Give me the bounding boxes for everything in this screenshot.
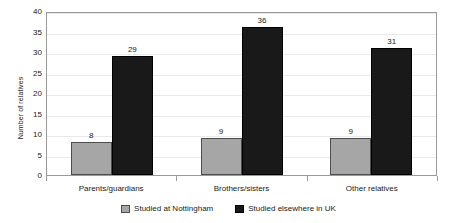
y-axis-tick-label: 30 [24, 49, 42, 57]
legend-label: Studied elsewhere in UK [248, 205, 336, 213]
x-axis-category-labels: Parents/guardians Brothers/sisters Other… [46, 182, 437, 196]
category-group: 9 36 [177, 13, 307, 175]
legend-item: Studied elsewhere in UK [235, 205, 336, 213]
bar-value-label: 8 [89, 132, 93, 140]
x-axis-tick [307, 176, 308, 181]
x-axis-tick [46, 176, 47, 181]
x-axis-ticks [46, 176, 437, 181]
y-axis-tick-label: 5 [24, 152, 42, 160]
bar-wrapper: 9 [201, 13, 242, 175]
category-group: 8 29 [47, 13, 177, 175]
x-axis-category-label: Brothers/sisters [176, 182, 306, 196]
bar-wrapper: 36 [242, 13, 283, 175]
legend-label: Studied at Nottingham [134, 205, 213, 213]
bar-wrapper: 9 [330, 13, 371, 175]
legend-swatch-icon [121, 205, 130, 213]
bar-wrapper: 31 [371, 13, 412, 175]
bar-value-label: 36 [258, 17, 267, 25]
legend: Studied at Nottingham Studied elsewhere … [0, 202, 457, 216]
bar-elsewhere [112, 56, 153, 175]
category-group: 9 31 [306, 13, 436, 175]
y-axis-tick-label: 20 [24, 90, 42, 98]
bars-container: 8 29 9 36 9 [47, 13, 436, 175]
legend-swatch-icon [235, 205, 244, 213]
y-axis-tick-label: 10 [24, 131, 42, 139]
bar-chart: Number of relatives 40 35 30 25 20 15 10… [0, 0, 457, 223]
bar-elsewhere [242, 27, 283, 175]
y-axis-tick-labels: 40 35 30 25 20 15 10 5 0 [24, 12, 42, 176]
bar-value-label: 9 [348, 128, 352, 136]
x-axis-category-label: Other relatives [307, 182, 437, 196]
plot-area: 8 29 9 36 9 [46, 12, 437, 176]
bar-nottingham [201, 138, 242, 175]
y-axis-tick-label: 0 [24, 172, 42, 180]
bar-nottingham [71, 142, 112, 175]
y-axis-tick-label: 40 [24, 8, 42, 16]
bar-value-label: 9 [219, 128, 223, 136]
bar-value-label: 31 [387, 38, 396, 46]
x-axis-tick [176, 176, 177, 181]
bar-value-label: 29 [128, 46, 137, 54]
legend-item: Studied at Nottingham [121, 205, 213, 213]
bar-elsewhere [371, 48, 412, 175]
y-axis-tick-label: 25 [24, 70, 42, 78]
x-axis-category-label: Parents/guardians [46, 182, 176, 196]
y-axis-tick-label: 15 [24, 111, 42, 119]
bar-wrapper: 8 [71, 13, 112, 175]
bar-wrapper: 29 [112, 13, 153, 175]
y-axis-tick-label: 35 [24, 29, 42, 37]
x-axis-tick [437, 176, 438, 181]
bar-nottingham [330, 138, 371, 175]
